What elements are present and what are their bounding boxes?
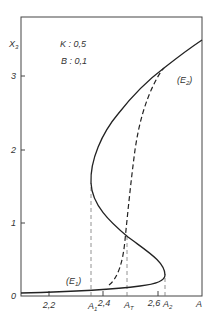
y-axis-label: X3: [8, 39, 19, 50]
param-b-label: B : 0,1: [61, 56, 87, 66]
e1-label: (E1): [66, 276, 81, 287]
y-tick-0: 0: [11, 291, 16, 301]
x-tick-a1: A1: [87, 301, 97, 312]
x-tick-2-2: 2,2: [42, 300, 56, 310]
x-tick-at: AT: [123, 300, 135, 311]
dashed-curve: [109, 68, 164, 285]
y-tick-1: 1: [11, 218, 16, 228]
solid-curve: [21, 40, 202, 293]
x-tick-a2: A2: [162, 299, 173, 310]
y-tick-2: 2: [10, 145, 16, 155]
reference-lines: [91, 183, 165, 296]
y-tick-3: 3: [11, 71, 16, 81]
bifurcation-chart: 3 2 1 0 X3 K : 0,5 B : 0,1 2,2 2,4 2,6 A…: [0, 0, 214, 323]
x-tick-2-4: 2,4: [97, 298, 111, 308]
x-axis-label: A: [195, 299, 202, 309]
e2-label: (E2): [177, 75, 192, 86]
param-k-label: K : 0,5: [60, 39, 87, 49]
x-tick-2-6: 2,6: [147, 298, 161, 308]
y-axis-ticks: [21, 76, 25, 223]
